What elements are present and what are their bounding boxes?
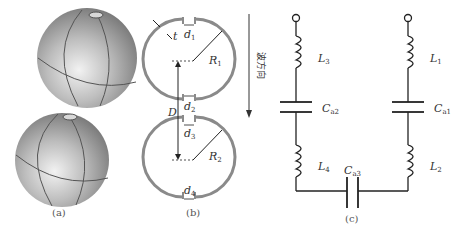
- panel-c: L3 L1 Ca2 Ca1 L4 L2 Ca3 (c): [270, 0, 461, 236]
- left-terminal: [293, 15, 300, 22]
- cross-section-diagram: t d1 d2 d3 d4 R1 R2 D 波方向 (b): [140, 0, 270, 236]
- panel-b: t d1 d2 d3 d4 R1 R2 D 波方向 (b): [140, 0, 270, 236]
- caption-a: (a): [52, 207, 66, 218]
- inductor-l2: [408, 145, 413, 177]
- right-terminal: [405, 15, 412, 22]
- caption-b: (b): [186, 207, 200, 218]
- label-l2: L: [429, 160, 437, 173]
- label-l3: L: [317, 52, 325, 65]
- lower-sphere: [15, 113, 109, 207]
- svg-text:R2: R2: [208, 150, 222, 164]
- svg-text:d3: d3: [184, 127, 196, 141]
- svg-text:Ca2: Ca2: [322, 102, 339, 116]
- svg-text:Ca1: Ca1: [434, 102, 451, 116]
- equivalent-circuit: L3 L1 Ca2 Ca1 L4 L2 Ca3 (c): [270, 0, 461, 236]
- label-r1: R: [208, 54, 217, 67]
- label-d3: d: [184, 127, 191, 140]
- panel-a: (a): [0, 0, 140, 236]
- inductor-l4: [296, 145, 301, 177]
- svg-text:d1: d1: [184, 28, 196, 42]
- svg-text:L4: L4: [317, 160, 330, 174]
- svg-text:L2: L2: [429, 160, 442, 174]
- inductor-l3: [296, 36, 301, 68]
- svg-text:d2: d2: [184, 100, 196, 114]
- svg-text:t: t: [173, 30, 178, 43]
- svg-text:L1: L1: [429, 52, 442, 66]
- caption-c: (c): [345, 213, 359, 224]
- svg-text:R1: R1: [208, 54, 222, 68]
- label-d4: d: [184, 184, 191, 197]
- svg-text:d4: d4: [184, 184, 196, 198]
- label-r2: R: [208, 150, 217, 163]
- label-d2: d: [184, 100, 191, 113]
- wave-direction-label: 波方向: [256, 52, 267, 79]
- svg-text:Ca3: Ca3: [344, 164, 361, 178]
- label-t: t: [173, 30, 178, 43]
- inductor-l1: [408, 36, 413, 68]
- label-d1: d: [184, 28, 191, 41]
- spheres-3d-illustration: (a): [0, 0, 140, 236]
- radius-arrow-r1: [193, 31, 222, 61]
- svg-text:L3: L3: [317, 52, 330, 66]
- label-l1: L: [429, 52, 437, 65]
- label-l4: L: [317, 160, 325, 173]
- label-d-distance: D: [167, 106, 177, 119]
- upper-sphere: [37, 8, 137, 108]
